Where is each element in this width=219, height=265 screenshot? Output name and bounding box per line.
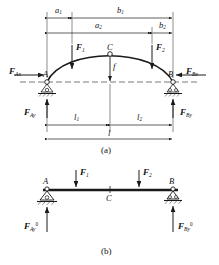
dimension-label-l: l [108,129,110,138]
dimension-label-b2: b2 [159,21,166,30]
reaction-label-FBy: FBy [180,108,192,117]
support-B-roller [164,191,182,204]
reaction-label-FBy0: FBy0 [178,222,193,231]
support-A-pin [37,191,57,205]
point-label-B: B [168,70,173,79]
point-label-B: B [169,177,174,186]
load-label-F1: F1 [80,168,89,177]
crown-hinge-C [108,52,113,57]
dimension-label-a1: a1 [55,6,62,15]
point-label-C: C [107,43,113,52]
point-label-C: C [106,194,112,203]
dimension-label-l2: l2 [137,113,142,122]
reaction-label-FAy: FAy [24,108,36,117]
load-label-F2: F2 [156,43,165,52]
point-label-A: A [43,70,48,79]
dimension-label-l1: l1 [74,113,79,122]
dimension-label-f: f [113,62,116,71]
caption-a: (a) [101,146,111,155]
reaction-label-FAx: FAx [9,67,21,76]
reaction-label-FAy0: FAy0 [24,222,38,231]
dimension-label-b1: b1 [117,6,124,15]
load-label-F1: F1 [76,43,85,52]
caption-b: (b) [101,247,112,256]
point-label-A: A [43,177,48,186]
reaction-label-FBx: FBx [186,67,198,76]
dimension-label-a2: a2 [95,21,102,30]
load-label-F2: F2 [143,168,152,177]
